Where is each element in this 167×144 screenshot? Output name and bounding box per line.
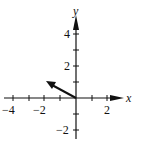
x-axis	[4, 95, 124, 101]
y-axis-label: y	[72, 4, 79, 18]
vector-arrowhead-icon	[46, 81, 56, 89]
x-tick-label: −4	[2, 103, 15, 117]
x-axis-arrow-icon	[110, 95, 124, 101]
x-tick-label: 2	[104, 103, 110, 117]
y-tick-label: 4	[64, 27, 70, 41]
y-axis	[73, 15, 79, 139]
vector	[46, 81, 76, 98]
x-axis-label: x	[125, 91, 132, 105]
x-tick-label: −2	[33, 103, 46, 117]
y-tick-label: 2	[64, 59, 70, 73]
y-tick-label: −2	[56, 123, 69, 137]
coordinate-plane: y x −4 −2 2 4 2 −2	[0, 0, 167, 144]
